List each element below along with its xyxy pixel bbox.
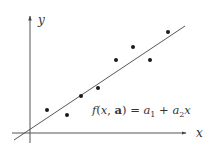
eq-plus: + — [155, 103, 172, 117]
data-point — [45, 108, 49, 112]
data-point — [65, 113, 69, 117]
eq-comma: , — [107, 103, 114, 117]
y-axis-label: y — [37, 13, 45, 27]
x-axis-label: x — [196, 126, 203, 140]
fit-equation: f(x, a) = a1 + a2x — [91, 103, 191, 119]
regression-figure: x y f(x, a) = a1 + a2x — [0, 0, 215, 151]
data-point — [148, 58, 152, 62]
fit-line — [14, 26, 185, 140]
data-point — [131, 45, 135, 49]
data-point — [166, 30, 170, 34]
data-point — [96, 86, 100, 90]
eq-equals: = — [127, 103, 144, 117]
data-point — [79, 94, 83, 98]
data-point — [114, 58, 118, 62]
eq-x2: x — [184, 103, 191, 117]
